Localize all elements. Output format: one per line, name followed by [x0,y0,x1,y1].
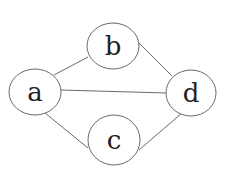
edge-a-c [45,113,88,148]
node-c-label: c [107,125,122,155]
node-b: b [87,23,139,69]
graph-diagram: a b c d [0,0,225,185]
nodes-group: a b c d [9,23,216,165]
node-c: c [88,115,140,165]
node-d-label: d [183,78,200,108]
edge-a-b [54,57,88,75]
node-a: a [9,69,61,115]
node-a-label: a [27,77,43,107]
edge-a-d [61,90,166,93]
edge-b-d [138,42,172,76]
edge-c-d [139,113,182,150]
node-b-label: b [105,31,122,61]
node-d: d [166,70,216,116]
